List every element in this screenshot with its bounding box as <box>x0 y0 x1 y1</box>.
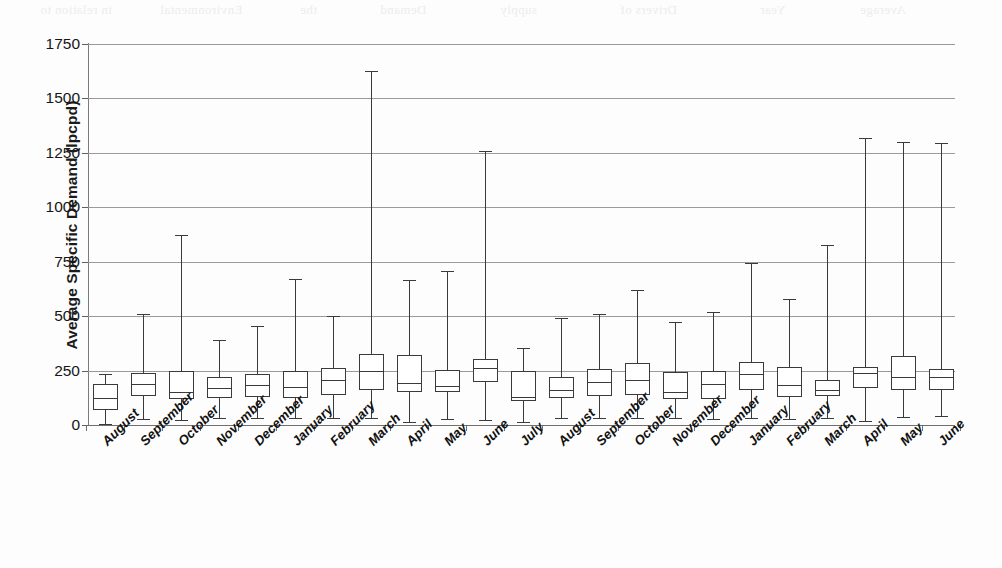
upper-whisker-cap <box>707 312 720 313</box>
median-line <box>739 374 764 375</box>
lower-whisker <box>865 388 866 421</box>
lower-whisker <box>903 390 904 417</box>
upper-whisker <box>447 271 448 370</box>
boxplot-9 <box>428 44 466 425</box>
boxplot-20 <box>846 44 884 425</box>
median-line <box>853 373 878 374</box>
median-line <box>929 377 954 378</box>
upper-whisker-cap <box>175 235 188 236</box>
lower-whisker-cap <box>935 416 948 417</box>
y-tick-label-1000: 1000 <box>20 199 80 215</box>
upper-whisker <box>485 151 486 359</box>
median-line <box>511 397 536 398</box>
upper-whisker-cap <box>555 318 568 319</box>
iqr-box <box>663 372 688 399</box>
boxplot-15 <box>656 44 694 425</box>
upper-whisker <box>371 71 372 353</box>
upper-whisker-cap <box>783 299 796 300</box>
boxplot-2 <box>162 44 200 425</box>
y-tick-label-1750: 1750 <box>20 36 80 52</box>
upper-whisker <box>789 299 790 368</box>
y-tick-label-0: 0 <box>20 417 80 433</box>
lower-whisker-cap <box>897 417 910 418</box>
upper-whisker <box>637 290 638 362</box>
upper-whisker-cap <box>593 314 606 315</box>
x-tick-mark <box>86 425 87 431</box>
median-line <box>283 387 308 388</box>
median-line <box>321 380 346 381</box>
upper-whisker <box>675 322 676 373</box>
boxplot-0 <box>86 44 124 425</box>
boxplot-18 <box>770 44 808 425</box>
iqr-box <box>853 367 878 389</box>
plot-area: 02505007501000125015001750 AugustSeptemb… <box>88 44 955 425</box>
median-line <box>93 398 118 399</box>
median-line <box>549 390 574 391</box>
boxplot-7 <box>352 44 390 425</box>
median-line <box>625 380 650 381</box>
upper-whisker <box>751 263 752 362</box>
iqr-box <box>815 380 840 396</box>
upper-whisker <box>713 312 714 370</box>
boxplot-17 <box>732 44 770 425</box>
upper-whisker <box>181 235 182 372</box>
lower-whisker <box>561 398 562 419</box>
boxplot-1 <box>124 44 162 425</box>
median-line <box>435 386 460 387</box>
upper-whisker-cap <box>897 142 910 143</box>
boxplot-16 <box>694 44 732 425</box>
median-line <box>473 368 498 369</box>
boxplot-12 <box>542 44 580 425</box>
lower-whisker <box>941 390 942 416</box>
iqr-box <box>549 377 574 398</box>
iqr-box <box>435 370 460 392</box>
upper-whisker <box>219 340 220 377</box>
upper-whisker <box>599 314 600 369</box>
gridline-0 <box>88 425 955 426</box>
lower-whisker <box>599 396 600 418</box>
lower-whisker <box>143 396 144 419</box>
boxplot-11 <box>504 44 542 425</box>
boxplot-21 <box>884 44 922 425</box>
upper-whisker-cap <box>99 374 112 375</box>
lower-whisker-cap <box>479 420 492 421</box>
upper-whisker <box>295 279 296 371</box>
median-line <box>207 388 232 389</box>
y-tick-mark <box>82 425 88 426</box>
iqr-box <box>929 369 954 390</box>
upper-whisker <box>523 348 524 370</box>
upper-whisker-cap <box>517 348 530 349</box>
upper-whisker-cap <box>631 290 644 291</box>
upper-whisker-cap <box>479 151 492 152</box>
bleed-text: supply <box>500 2 537 18</box>
median-line <box>815 390 840 391</box>
lower-whisker-cap <box>441 419 454 420</box>
upper-whisker <box>257 326 258 374</box>
upper-whisker-cap <box>821 245 834 246</box>
iqr-box <box>397 355 422 392</box>
lower-whisker <box>105 410 106 424</box>
boxplot-3 <box>200 44 238 425</box>
boxplot-6 <box>314 44 352 425</box>
iqr-box <box>739 362 764 389</box>
boxplot-5 <box>276 44 314 425</box>
upper-whisker-cap <box>289 279 302 280</box>
lower-whisker <box>523 401 524 422</box>
upper-whisker-cap <box>365 71 378 72</box>
y-tick-label-500: 500 <box>20 308 80 324</box>
upper-whisker-cap <box>213 340 226 341</box>
median-line <box>359 371 384 372</box>
y-tick-label-250: 250 <box>20 363 80 379</box>
bleed-text: Environmental <box>160 2 242 18</box>
upper-whisker <box>143 314 144 373</box>
upper-whisker-cap <box>137 314 150 315</box>
boxplot-4 <box>238 44 276 425</box>
upper-whisker-cap <box>403 280 416 281</box>
upper-whisker-cap <box>935 143 948 144</box>
upper-whisker-cap <box>859 138 872 139</box>
boxplot-22 <box>922 44 960 425</box>
lower-whisker-cap <box>859 421 872 422</box>
bleed-text: Demand <box>380 2 426 18</box>
boxplot-10 <box>466 44 504 425</box>
upper-whisker <box>865 138 866 367</box>
